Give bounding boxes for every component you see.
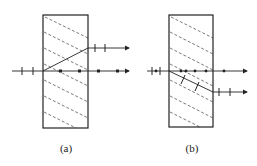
- birefringence-diagram: [0, 0, 257, 166]
- optic-axis-hatching-a: [44, 17, 88, 128]
- crystal-slab-a: [43, 15, 88, 128]
- panel-b: [147, 15, 247, 127]
- e-ray-a: [43, 48, 129, 71]
- e-ray-b: [169, 71, 247, 92]
- panel-a: [12, 15, 129, 128]
- caption-a: (a): [51, 142, 81, 154]
- caption-b: (b): [177, 142, 207, 154]
